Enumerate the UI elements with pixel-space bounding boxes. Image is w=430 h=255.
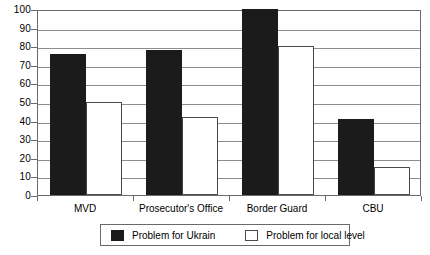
bar-chart: 1009080706050403020100 MVDProsecutor's O… xyxy=(0,0,430,255)
bar-group xyxy=(242,11,314,195)
legend-swatch-light-icon xyxy=(245,230,258,241)
y-axis-tick-label: 40 xyxy=(19,117,31,127)
x-axis-category-label: Prosecutor's Office xyxy=(133,203,229,215)
x-axis-tick-mark xyxy=(325,196,326,201)
legend-label-series-1: Problem for Ukrain xyxy=(132,230,215,241)
bar-group xyxy=(338,11,410,195)
x-axis-category-label: CBU xyxy=(325,203,421,215)
bar-series-1 xyxy=(338,119,374,195)
y-axis-tick-label: 60 xyxy=(19,79,31,89)
y-axis-tick-label: 50 xyxy=(19,98,31,108)
bar-group xyxy=(146,11,218,195)
plot-area xyxy=(37,10,421,196)
x-axis-category-label: MVD xyxy=(37,203,133,215)
x-axis-tick-mark xyxy=(133,196,134,201)
x-axis-category-label: Border Guard xyxy=(229,203,325,215)
y-axis-tick-label: 90 xyxy=(19,24,31,34)
bar-series-2 xyxy=(182,117,218,195)
y-axis-tick-label: 80 xyxy=(19,42,31,52)
bar-group xyxy=(50,11,122,195)
y-axis-tick-label: 20 xyxy=(19,154,31,164)
legend-entry-problem-for-local-level: Problem for local level xyxy=(245,225,364,245)
x-axis-tick-mark xyxy=(421,196,422,201)
x-axis-tick-mark xyxy=(37,196,38,201)
bar-series-1 xyxy=(146,50,182,195)
bar-series-1 xyxy=(50,54,86,195)
x-axis-tick-mark xyxy=(229,196,230,201)
bar-series-2 xyxy=(86,102,122,195)
y-axis-tick-label: 10 xyxy=(19,172,31,182)
legend-entry-problem-for-ukrain: Problem for Ukrain xyxy=(111,225,215,245)
y-axis: 1009080706050403020100 xyxy=(0,0,31,255)
chart-legend: Problem for Ukrain Problem for local lev… xyxy=(100,224,350,246)
bar-series-2 xyxy=(278,46,314,195)
y-axis-tick-label: 30 xyxy=(19,135,31,145)
bar-series-1 xyxy=(242,9,278,195)
y-axis-tick-label: 100 xyxy=(14,5,31,15)
bar-series-2 xyxy=(374,167,410,195)
y-axis-tick-label: 70 xyxy=(19,61,31,71)
legend-label-series-2: Problem for local level xyxy=(266,230,364,241)
legend-swatch-dark-icon xyxy=(111,230,124,241)
